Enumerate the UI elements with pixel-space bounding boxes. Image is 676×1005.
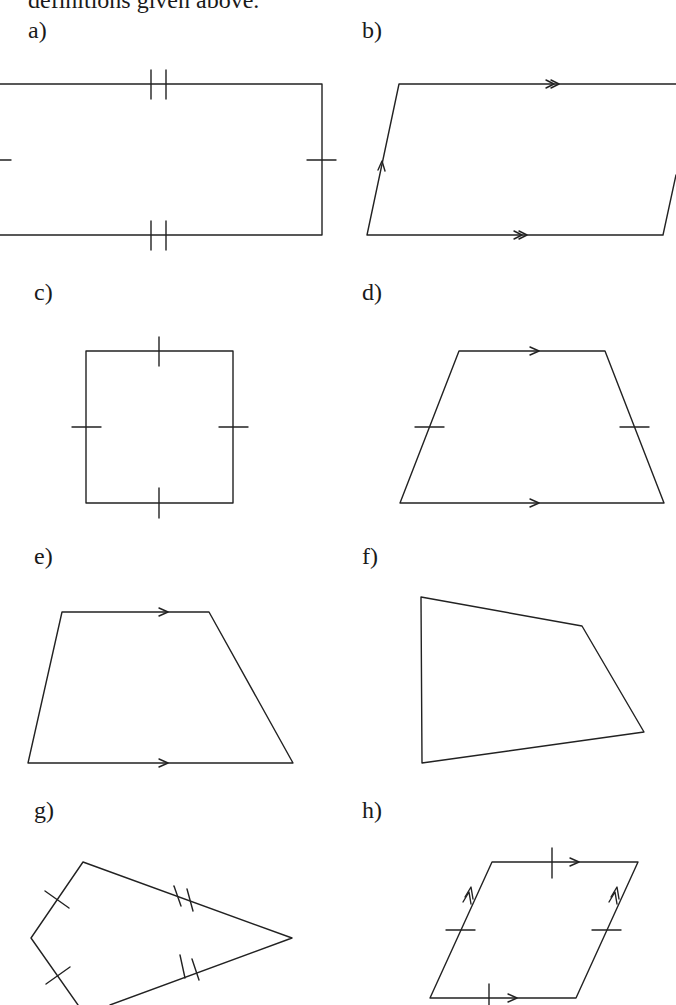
figure-d-isosceles-trapezium [400, 347, 664, 507]
figure-e-trapezium [28, 608, 293, 767]
figure-c-square [72, 337, 248, 518]
figure-g-kite [31, 862, 292, 1005]
figure-a-rectangle [0, 70, 336, 250]
figure-b-parallelogram [367, 80, 676, 239]
figures-canvas [0, 0, 676, 1005]
figure-f-quadrilateral [421, 597, 644, 763]
figure-h-rhombus [430, 848, 638, 1005]
